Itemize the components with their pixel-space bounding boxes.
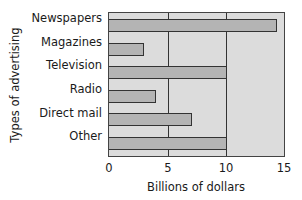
plot-area — [108, 12, 285, 157]
category-label: Television — [46, 58, 102, 72]
bar — [109, 113, 192, 126]
x-tick-label: 5 — [164, 161, 171, 175]
bar — [109, 66, 227, 79]
x-tick-label: 10 — [219, 161, 234, 175]
gridline — [226, 13, 227, 156]
x-axis-label: Billions of dollars — [147, 180, 245, 194]
y-axis-label: Types of advertising — [8, 27, 22, 142]
x-tick-label: 0 — [105, 161, 112, 175]
category-label: Radio — [70, 82, 102, 96]
bar — [109, 19, 277, 32]
category-label: Direct mail — [39, 106, 102, 120]
bar — [109, 137, 227, 150]
gridline — [168, 13, 169, 156]
x-tick-label: 15 — [277, 161, 292, 175]
bar — [109, 90, 156, 103]
category-label: Newspapers — [31, 11, 102, 25]
category-label: Other — [69, 129, 102, 143]
bar — [109, 43, 144, 56]
category-label: Magazines — [41, 35, 102, 49]
